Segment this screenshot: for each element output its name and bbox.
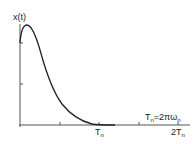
x-tick-label-tn: Tn [95,128,104,138]
y-axis-label: x(t) [13,13,26,22]
response-curve [20,25,115,125]
period-formula-annotation: Tn=2πωn [145,113,181,123]
x-tick-label-2tn: 2Tn [171,128,185,138]
